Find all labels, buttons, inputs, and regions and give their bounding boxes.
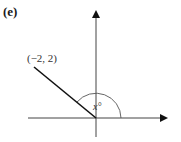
- angle-label: x°: [92, 101, 101, 112]
- panel-label: (e): [3, 4, 17, 20]
- angle-diagram: (e) (−2, 2) x°: [0, 0, 181, 142]
- point-label: (−2, 2): [27, 52, 57, 65]
- terminal-side-segment: [34, 67, 96, 118]
- diagram-canvas: (−2, 2) x°: [0, 0, 181, 142]
